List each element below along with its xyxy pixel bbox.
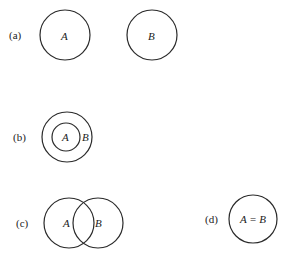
set-b-label: B [95, 217, 102, 229]
panel-a: (a) A B [9, 10, 177, 60]
set-a-label: A [60, 30, 68, 42]
panel-b: (b) A B [13, 112, 92, 162]
panel-b-label: (b) [13, 131, 26, 144]
set-a-label: A [61, 131, 69, 143]
set-b-label: B [148, 30, 155, 42]
panel-c: (c) A B [16, 198, 123, 248]
set-b-label: B [82, 131, 89, 143]
venn-diagrams: (a) A B (b) A B (c) A B (d) A = B [0, 0, 287, 254]
panel-d: (d) A = B [205, 195, 277, 243]
set-a-equals-b-label: A = B [239, 213, 266, 225]
panel-d-label: (d) [205, 213, 218, 226]
panel-c-label: (c) [16, 217, 29, 230]
panel-a-label: (a) [9, 29, 22, 42]
set-a-label: A [62, 217, 70, 229]
